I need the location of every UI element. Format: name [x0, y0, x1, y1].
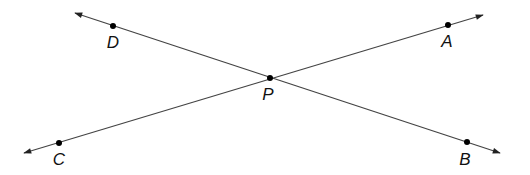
point-C: [56, 140, 62, 146]
intersecting-lines-diagram: DAPCB: [0, 0, 530, 175]
label-A: A: [440, 32, 452, 51]
label-B: B: [459, 150, 470, 169]
point-A: [445, 22, 451, 28]
line-DB: [75, 13, 500, 153]
line-CA: [24, 15, 483, 153]
point-D: [110, 23, 116, 29]
label-P: P: [262, 85, 274, 104]
point-B: [464, 139, 470, 145]
point-P: [267, 75, 273, 81]
label-C: C: [53, 150, 66, 169]
label-D: D: [107, 33, 119, 52]
